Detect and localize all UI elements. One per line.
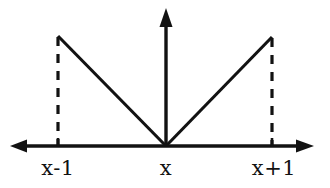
axis-label-x: x — [160, 158, 172, 179]
axis-label-x-plus-1: x+1 — [252, 158, 296, 179]
up-arrowhead-icon — [160, 8, 173, 27]
right-arrowhead-icon — [296, 140, 314, 153]
graph-arm-left — [58, 36, 166, 146]
graph-arm-right — [166, 37, 272, 146]
figure-canvas: x-1 x x+1 — [0, 0, 330, 188]
axis-label-x-minus-1: x-1 — [41, 158, 74, 179]
left-arrowhead-icon — [10, 140, 27, 153]
